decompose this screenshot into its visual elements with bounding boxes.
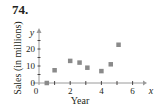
y-tick-label: 0 [31,78,36,88]
axes [33,28,147,86]
data-point [109,62,114,67]
x-axis-title: Year [71,95,90,106]
data-point [52,68,57,73]
y-tick-label: 10 [26,61,36,71]
y-axis-title: Sales (in millions) [12,21,24,94]
data-point [85,65,90,70]
data-points [45,43,121,86]
x-axis-arrow-icon [143,81,147,86]
y-tick-label: 20 [26,44,36,54]
data-point [77,60,82,65]
scatter-chart: 024601020xyYearSales (in millions) [0,0,157,109]
x-tick-label: 6 [130,86,135,96]
data-point [116,43,121,48]
y-axis-variable: y [29,27,35,38]
data-point [45,81,50,86]
data-point [68,59,73,64]
data-point [99,69,104,74]
axis-labels: 024601020xyYearSales (in millions) [12,21,154,106]
x-tick-label: 4 [99,86,104,96]
x-axis-variable: x [148,85,154,96]
y-axis-arrow-icon [37,28,42,33]
